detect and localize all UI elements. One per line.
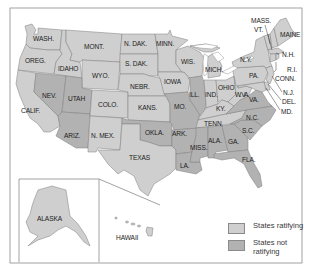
svg-text:CALIF.: CALIF. <box>21 107 40 114</box>
state-ct[interactable] <box>270 54 276 62</box>
svg-text:UTAH: UTAH <box>68 95 85 102</box>
svg-text:ARIZ.: ARIZ. <box>64 132 81 139</box>
svg-text:COLO.: COLO. <box>98 101 118 108</box>
state-nj[interactable] <box>266 66 274 84</box>
us-map: WASH. OREG. CALIF. IDAHO NEV. MONT. WYO.… <box>0 0 309 273</box>
svg-text:IND.: IND. <box>205 91 218 98</box>
svg-text:S.C.: S.C. <box>242 127 255 134</box>
svg-text:WYO.: WYO. <box>92 72 109 79</box>
svg-text:VT.: VT. <box>254 26 263 33</box>
svg-text:OHIO: OHIO <box>218 84 234 91</box>
svg-text:KANS.: KANS. <box>138 104 158 111</box>
state-ri[interactable] <box>276 54 279 60</box>
legend-item-not-ratifying: States not ratifying <box>228 239 304 256</box>
svg-text:NEBR.: NEBR. <box>130 83 150 90</box>
svg-text:LA.: LA. <box>180 162 190 169</box>
svg-text:DEL.: DEL. <box>282 98 297 105</box>
svg-text:NEV.: NEV. <box>42 92 57 99</box>
svg-text:MICH.: MICH. <box>205 66 223 73</box>
map-legend: States ratifying States not ratifying <box>228 222 304 261</box>
svg-text:CONN.: CONN. <box>275 75 296 82</box>
svg-text:GA.: GA. <box>228 138 239 145</box>
svg-text:ILL.: ILL. <box>189 91 200 98</box>
svg-text:TEXAS: TEXAS <box>129 154 151 161</box>
svg-text:N.Y.: N.Y. <box>240 56 252 63</box>
legend-label-not-ratifying: States not ratifying <box>253 239 304 256</box>
svg-text:S. DAK.: S. DAK. <box>125 60 148 67</box>
svg-text:MD.: MD. <box>281 108 293 115</box>
svg-text:HAWAII: HAWAII <box>116 234 139 241</box>
svg-text:N. MEX.: N. MEX. <box>91 132 115 139</box>
legend-swatch-not-ratifying <box>228 240 245 251</box>
svg-text:R.I.: R.I. <box>287 66 297 73</box>
svg-text:W. VA.: W. VA. <box>235 91 249 98</box>
svg-text:KY.: KY. <box>216 105 226 112</box>
svg-text:MASS.: MASS. <box>251 17 271 24</box>
svg-text:MONT.: MONT. <box>84 43 104 50</box>
svg-text:WIS.: WIS. <box>181 58 195 65</box>
svg-text:N.C.: N.C. <box>246 114 259 121</box>
svg-text:N. DAK.: N. DAK. <box>124 40 147 47</box>
legend-label-ratifying: States ratifying <box>253 222 303 231</box>
svg-text:TENN.: TENN. <box>204 120 224 127</box>
svg-text:VA.: VA. <box>249 96 259 103</box>
svg-text:FLA.: FLA. <box>242 156 256 163</box>
svg-text:ARK.: ARK. <box>172 130 187 137</box>
svg-text:MISS.: MISS. <box>190 144 208 151</box>
svg-text:PA.: PA. <box>249 72 259 79</box>
svg-text:OREG.: OREG. <box>25 57 46 64</box>
svg-text:IOWA: IOWA <box>164 78 182 85</box>
svg-text:MO.: MO. <box>174 103 186 110</box>
legend-swatch-ratifying <box>228 223 245 234</box>
svg-text:ALASKA: ALASKA <box>37 215 63 222</box>
svg-text:ALA.: ALA. <box>208 137 222 144</box>
state-az[interactable] <box>56 112 90 148</box>
svg-text:IDAHO: IDAHO <box>58 65 78 72</box>
svg-text:N.H.: N.H. <box>282 51 295 58</box>
svg-text:WASH.: WASH. <box>33 35 54 42</box>
svg-text:MINN.: MINN. <box>156 40 174 47</box>
svg-text:OKLA.: OKLA. <box>145 129 164 136</box>
legend-item-ratifying: States ratifying <box>228 222 304 234</box>
svg-text:N.J.: N.J. <box>283 89 295 96</box>
svg-text:MAINE: MAINE <box>280 31 301 38</box>
